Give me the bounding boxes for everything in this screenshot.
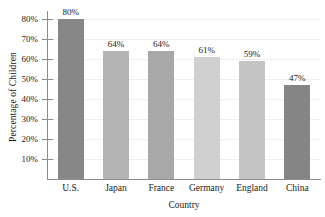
x-tick-label: U.S. <box>45 183 97 194</box>
bar[interactable] <box>239 61 265 179</box>
bar-value-label: 61% <box>187 46 227 55</box>
y-tick-mark <box>42 159 53 160</box>
bar-value-label: 64% <box>141 40 181 49</box>
bar-value-label: 59% <box>232 50 272 59</box>
y-tick-label: 70% <box>4 35 38 44</box>
y-tick-label: 20% <box>4 135 38 144</box>
bar[interactable] <box>284 85 310 179</box>
y-tick-label: 80% <box>4 15 38 24</box>
gridline <box>48 59 320 60</box>
x-tick-label: China <box>271 183 323 194</box>
y-tick-label: 50% <box>4 75 38 84</box>
x-tick-label: Germany <box>181 183 233 194</box>
y-tick-label: 60% <box>4 55 38 64</box>
gridline <box>48 159 320 160</box>
y-tick-mark <box>42 119 53 120</box>
bar-chart: Percentage of Children 80%64%64%61%59%47… <box>0 0 325 217</box>
bar[interactable] <box>148 51 174 179</box>
bar-value-label: 64% <box>96 40 136 49</box>
bar[interactable] <box>194 57 220 179</box>
bar[interactable] <box>103 51 129 179</box>
x-tick-label: Japan <box>90 183 142 194</box>
x-tick-label: England <box>226 183 278 194</box>
gridline <box>48 139 320 140</box>
y-tick-label: 30% <box>4 115 38 124</box>
bar-value-label: 80% <box>51 8 91 17</box>
bar-value-label: 47% <box>277 74 317 83</box>
y-tick-mark <box>42 79 53 80</box>
gridline <box>48 39 320 40</box>
y-tick-mark <box>42 19 53 20</box>
gridline <box>48 119 320 120</box>
y-tick-mark <box>42 99 53 100</box>
plot-area: 80%64%64%61%59%47% <box>48 12 320 179</box>
x-axis-line <box>47 179 321 180</box>
y-tick-mark <box>42 39 53 40</box>
gridline <box>48 19 320 20</box>
x-axis-title: Country <box>48 200 320 210</box>
gridline <box>48 99 320 100</box>
x-tick-label: France <box>135 183 187 194</box>
y-tick-label: 10% <box>4 155 38 164</box>
y-tick-label: 40% <box>4 95 38 104</box>
y-tick-mark <box>42 139 53 140</box>
bar[interactable] <box>58 19 84 179</box>
y-tick-mark <box>42 59 53 60</box>
